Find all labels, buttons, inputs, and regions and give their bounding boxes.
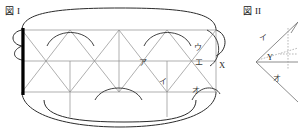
label-u: ウ — [194, 43, 202, 52]
outer-band-right-cap — [216, 30, 225, 56]
figure-2-title-numeral: II — [255, 6, 261, 16]
label-i: イ — [259, 33, 267, 42]
label-a: ア — [139, 58, 147, 67]
label-x: X — [219, 60, 225, 70]
label-y: Y — [267, 52, 273, 62]
flap-arc-bottom-1 — [95, 88, 142, 100]
figure-2-group: 図 II イ Y オ — [243, 6, 298, 102]
x-edge-curve — [207, 30, 219, 66]
label-o: オ — [192, 86, 200, 95]
outer-band-left-cap2 — [15, 46, 23, 60]
label-i: イ — [159, 77, 167, 86]
figure-2-title-glyph: 図 — [243, 6, 252, 16]
cone-edge-upper — [256, 22, 298, 62]
figure-1-title-numeral: I — [17, 6, 20, 16]
figure-1-group: 図 I ア イ — [5, 6, 225, 127]
label-o: オ — [273, 74, 281, 83]
inner-band-bottom — [44, 100, 196, 122]
outer-band-top — [22, 8, 216, 30]
flap-arc-top-2 — [144, 33, 191, 47]
label-e: エ — [195, 58, 203, 67]
outer-band-left-cap — [13, 30, 22, 46]
flap-arc-top-1 — [47, 33, 94, 47]
figure-canvas: 図 I ア イ — [0, 0, 298, 133]
figure-1-title-glyph: 図 — [5, 6, 14, 16]
